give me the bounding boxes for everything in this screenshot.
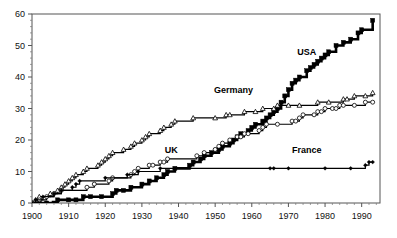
data-marker bbox=[341, 40, 345, 44]
data-marker bbox=[228, 138, 232, 142]
data-marker bbox=[275, 122, 279, 126]
data-marker bbox=[360, 28, 364, 32]
data-marker bbox=[158, 166, 162, 170]
y-tick-label: 50 bbox=[15, 41, 25, 51]
data-marker bbox=[301, 113, 305, 117]
data-marker bbox=[246, 132, 250, 136]
data-marker bbox=[349, 166, 353, 170]
data-marker bbox=[100, 195, 104, 199]
data-marker bbox=[312, 113, 316, 117]
data-marker bbox=[370, 90, 375, 94]
data-marker bbox=[166, 170, 170, 174]
data-marker bbox=[67, 198, 71, 202]
data-marker bbox=[272, 166, 276, 170]
data-marker bbox=[70, 185, 74, 189]
x-tick-label: 1940 bbox=[169, 211, 189, 221]
x-tick-label: 1920 bbox=[95, 211, 115, 221]
data-marker bbox=[279, 100, 283, 104]
data-marker bbox=[294, 78, 298, 82]
x-tick-label: 1910 bbox=[59, 211, 79, 221]
annotation-usa: USA bbox=[297, 47, 317, 57]
data-marker bbox=[199, 157, 203, 161]
data-marker bbox=[140, 182, 144, 186]
data-marker bbox=[202, 151, 206, 155]
data-marker bbox=[308, 66, 312, 70]
data-marker bbox=[78, 179, 82, 183]
data-marker bbox=[363, 163, 367, 167]
data-marker bbox=[334, 44, 338, 48]
data-marker bbox=[122, 188, 126, 192]
data-marker bbox=[191, 160, 195, 164]
data-marker bbox=[319, 56, 323, 60]
x-tick-label: 1930 bbox=[132, 211, 152, 221]
data-marker bbox=[81, 195, 85, 199]
data-marker bbox=[188, 163, 192, 167]
y-tick-label: 40 bbox=[15, 72, 25, 82]
x-tick-label: 1990 bbox=[352, 211, 372, 221]
data-marker bbox=[253, 122, 257, 126]
y-tick-label: 10 bbox=[15, 167, 25, 177]
x-tick-label: 1900 bbox=[22, 211, 42, 221]
data-marker bbox=[264, 122, 268, 126]
data-marker bbox=[162, 173, 166, 177]
data-marker bbox=[363, 100, 367, 104]
line-chart: 0102030405060190019101920193019401950196… bbox=[0, 0, 397, 238]
data-marker bbox=[264, 116, 268, 120]
data-marker bbox=[89, 195, 93, 199]
data-marker bbox=[239, 135, 243, 139]
data-marker bbox=[334, 107, 338, 111]
data-marker bbox=[250, 125, 254, 129]
annotation-france: France bbox=[292, 145, 322, 155]
y-tick-label: 0 bbox=[20, 198, 25, 208]
data-marker bbox=[323, 107, 327, 111]
data-marker bbox=[261, 125, 265, 129]
data-marker bbox=[316, 59, 320, 63]
data-marker bbox=[85, 185, 89, 189]
annotation-uk: UK bbox=[165, 145, 178, 155]
data-marker bbox=[352, 103, 356, 107]
data-marker bbox=[286, 88, 290, 92]
data-marker bbox=[297, 116, 301, 120]
data-marker bbox=[56, 198, 60, 202]
data-marker bbox=[74, 198, 78, 202]
data-marker bbox=[323, 53, 327, 57]
y-tick-label: 60 bbox=[15, 9, 25, 19]
data-marker bbox=[327, 50, 331, 54]
data-marker bbox=[319, 110, 323, 114]
data-marker bbox=[261, 119, 265, 123]
data-marker bbox=[111, 192, 115, 196]
annotation-germany: Germany bbox=[214, 85, 253, 95]
data-marker bbox=[162, 160, 166, 164]
data-marker bbox=[166, 157, 170, 161]
y-tick-label: 30 bbox=[15, 104, 25, 114]
data-marker bbox=[349, 37, 353, 41]
data-marker bbox=[356, 31, 360, 35]
data-marker bbox=[257, 129, 261, 133]
y-tick-label: 20 bbox=[15, 135, 25, 145]
data-marker bbox=[92, 182, 96, 186]
data-marker bbox=[371, 100, 375, 104]
data-marker bbox=[129, 185, 133, 189]
x-tick-label: 1980 bbox=[315, 211, 335, 221]
chart-container: 0102030405060190019101920193019401950196… bbox=[0, 0, 397, 238]
data-marker bbox=[147, 179, 151, 183]
data-marker bbox=[305, 69, 309, 73]
data-marker bbox=[290, 81, 294, 85]
x-tick-label: 1960 bbox=[242, 211, 262, 221]
data-marker bbox=[367, 160, 371, 164]
data-marker bbox=[74, 182, 78, 186]
data-marker bbox=[220, 141, 224, 145]
data-marker bbox=[371, 18, 375, 22]
x-tick-label: 1950 bbox=[205, 211, 225, 221]
data-marker bbox=[155, 176, 159, 180]
data-marker bbox=[294, 119, 298, 123]
series-uk bbox=[30, 100, 375, 205]
data-marker bbox=[103, 176, 107, 180]
data-marker bbox=[217, 144, 221, 148]
data-marker bbox=[323, 166, 327, 170]
data-marker bbox=[213, 147, 217, 151]
data-marker bbox=[268, 113, 272, 117]
x-tick-label: 1970 bbox=[278, 211, 298, 221]
data-marker bbox=[341, 103, 345, 107]
data-marker bbox=[312, 62, 316, 66]
